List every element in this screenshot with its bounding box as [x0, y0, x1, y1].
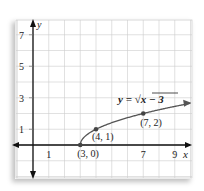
data-point — [141, 111, 146, 116]
point-label: (7, 2) — [140, 117, 162, 129]
y-axis-label: y — [36, 19, 42, 30]
function-graph: 1791357xy (3, 0)(4, 1)(7, 2) y = √x − 3 — [0, 0, 204, 191]
y-tick-label: 3 — [19, 93, 24, 104]
y-tick-label: 1 — [19, 124, 24, 135]
data-point — [78, 143, 83, 148]
x-tick-label: 9 — [172, 149, 177, 160]
y-tick-label: 5 — [19, 61, 24, 72]
x-tick-label: 1 — [46, 149, 51, 160]
x-axis-left-arrow-icon — [12, 142, 19, 148]
y-tick-label: 7 — [19, 30, 24, 41]
point-label: (4, 1) — [92, 131, 114, 143]
x-tick-label: 7 — [141, 149, 146, 160]
graph-paper — [16, 20, 192, 178]
point-label: (3, 0) — [77, 148, 99, 160]
grid-lines — [16, 20, 192, 178]
equation-text: y = √x − 3 — [116, 93, 164, 105]
x-axis-label: x — [182, 148, 188, 160]
